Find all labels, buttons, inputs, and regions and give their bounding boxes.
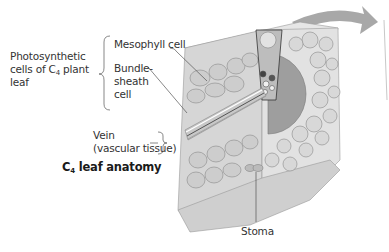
stoma-label: Stoma [241, 225, 274, 238]
next-panel-edge [384, 20, 387, 100]
vein-line2: (vascular tissue) [93, 142, 176, 155]
bundle-sheath-line3: cell [114, 88, 153, 101]
bundle-sheath-line2: sheath [114, 75, 153, 88]
bundle-sheath-leader [148, 67, 187, 113]
bundle-sheath-cell-label: Bundle- sheath cell [114, 62, 153, 101]
group-label-line1: Photosynthetic [10, 50, 89, 63]
group-label-line2: cells of C4 plant [10, 63, 89, 76]
vein-line1: Vein [93, 129, 176, 142]
photosynthetic-cells-label: Photosynthetic cells of C4 plant leaf [10, 50, 89, 89]
title-prefix: C [62, 160, 70, 174]
title-suffix: leaf anatomy [75, 160, 162, 174]
leaf-cross-section-illustration [0, 0, 389, 252]
group-label-line2-prefix: cells of C [10, 63, 56, 75]
vein-label: Vein (vascular tissue) [93, 129, 176, 155]
bundle-sheath-line1: Bundle- [114, 62, 153, 75]
diagram-title: C4 leaf anatomy [62, 160, 161, 174]
group-brace [99, 36, 110, 110]
group-label-line3: leaf [10, 76, 89, 89]
group-label-line2-suffix: plant [60, 63, 89, 75]
mesophyll-cell-label: Mesophyll cell [114, 38, 185, 51]
